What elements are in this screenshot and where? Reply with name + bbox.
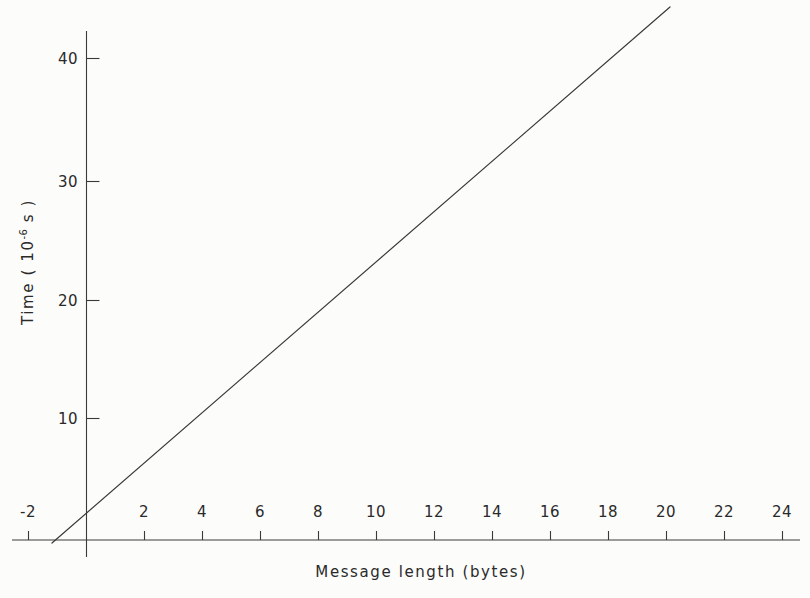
x-tick-label-20: 20 bbox=[656, 505, 676, 520]
x-tick-label-6: 6 bbox=[255, 505, 265, 520]
x-tick-label-16: 16 bbox=[540, 505, 560, 520]
y-tick-label-30: 30 bbox=[46, 175, 78, 190]
x-tick-label-22: 22 bbox=[714, 505, 734, 520]
x-tick-label-4: 4 bbox=[197, 505, 207, 520]
x-tick-label-18: 18 bbox=[598, 505, 618, 520]
y-axis-ticks bbox=[87, 59, 100, 419]
y-tick-label-10: 10 bbox=[46, 412, 78, 427]
series-transmission-time bbox=[52, 7, 670, 543]
x-axis-title: Message length (bytes) bbox=[315, 563, 526, 581]
plot-canvas bbox=[0, 0, 810, 598]
y-axis-title: Time ( 10-6 s ) bbox=[18, 199, 37, 325]
x-tick-label-12: 12 bbox=[424, 505, 444, 520]
y-tick-label-40: 40 bbox=[46, 52, 78, 67]
chart-figure: -2 2 4 6 8 10 12 14 16 18 20 22 24 10 20… bbox=[0, 0, 810, 598]
x-tick-label-2: 2 bbox=[139, 505, 149, 520]
x-tick-label-8: 8 bbox=[313, 505, 323, 520]
y-axis-title-prefix: Time ( 10 bbox=[19, 239, 37, 325]
y-tick-label-20: 20 bbox=[46, 294, 78, 309]
y-axis-title-exponent: -6 bbox=[18, 229, 29, 240]
x-tick-label-10: 10 bbox=[366, 505, 386, 520]
x-tick-label-24: 24 bbox=[772, 505, 792, 520]
x-tick-label-14: 14 bbox=[482, 505, 502, 520]
x-axis-ticks bbox=[29, 531, 783, 540]
x-tick-label--2: -2 bbox=[20, 505, 36, 520]
y-axis-title-suffix: s ) bbox=[19, 199, 37, 229]
